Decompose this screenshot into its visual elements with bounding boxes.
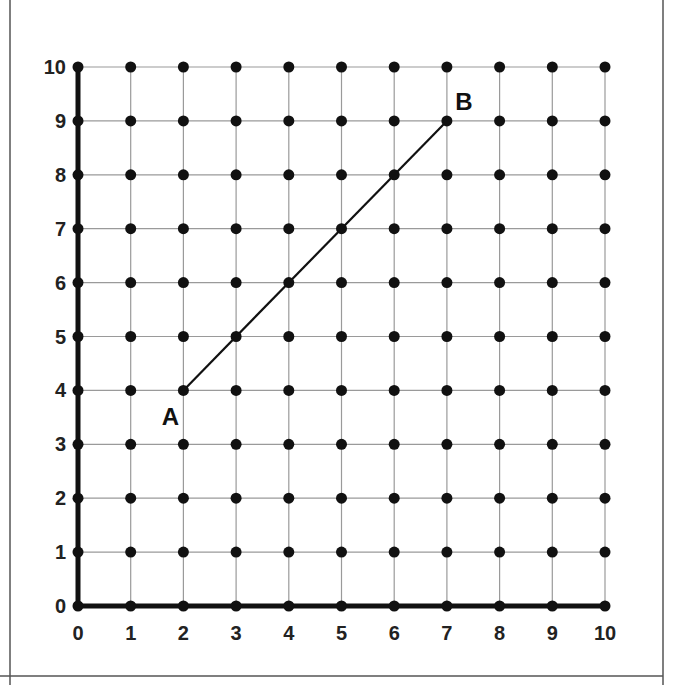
lattice-dot bbox=[178, 547, 189, 558]
lattice-dot bbox=[389, 62, 400, 73]
lattice-dot bbox=[283, 115, 294, 126]
lattice-dot bbox=[547, 331, 558, 342]
x-tick-label: 4 bbox=[283, 622, 295, 644]
lattice-dot bbox=[283, 169, 294, 180]
lattice-dot bbox=[125, 493, 136, 504]
lattice-dot bbox=[389, 223, 400, 234]
lattice-dot bbox=[441, 601, 452, 612]
lattice-dot bbox=[283, 223, 294, 234]
lattice-dot bbox=[125, 223, 136, 234]
lattice-dot bbox=[231, 385, 242, 396]
x-tick-label: 7 bbox=[441, 622, 452, 644]
lattice-dot bbox=[547, 601, 558, 612]
lattice-dot bbox=[389, 385, 400, 396]
lattice-dot bbox=[441, 62, 452, 73]
y-tick-label: 6 bbox=[55, 272, 66, 294]
lattice-dot bbox=[600, 115, 611, 126]
lattice-dot bbox=[494, 331, 505, 342]
lattice-dot bbox=[441, 115, 452, 126]
lattice-dot bbox=[547, 439, 558, 450]
lattice-dot bbox=[494, 385, 505, 396]
lattice-dot bbox=[73, 62, 84, 73]
lattice-dot bbox=[547, 223, 558, 234]
x-tick-label: 5 bbox=[336, 622, 347, 644]
lattice-dot bbox=[73, 277, 84, 288]
lattice-dot bbox=[389, 331, 400, 342]
lattice-dot bbox=[231, 223, 242, 234]
lattice-dot bbox=[125, 331, 136, 342]
lattice-dot bbox=[600, 601, 611, 612]
lattice-dot bbox=[600, 439, 611, 450]
lattice-dot bbox=[283, 277, 294, 288]
point-labels: AB bbox=[162, 88, 473, 431]
lattice-dot bbox=[231, 331, 242, 342]
lattice-dot bbox=[441, 223, 452, 234]
lattice-dot bbox=[125, 62, 136, 73]
lattice-dot bbox=[231, 62, 242, 73]
lattice-dot bbox=[73, 115, 84, 126]
lattice-dot bbox=[441, 277, 452, 288]
x-tick-label: 1 bbox=[125, 622, 136, 644]
lattice-dot bbox=[389, 277, 400, 288]
lattice-dot bbox=[125, 169, 136, 180]
lattice-dot bbox=[600, 277, 611, 288]
lattice-dot bbox=[231, 115, 242, 126]
lattice-dot bbox=[73, 223, 84, 234]
lattice-dot bbox=[494, 493, 505, 504]
y-tick-label: 10 bbox=[44, 56, 66, 78]
lattice-dot bbox=[336, 439, 347, 450]
lattice-dot bbox=[494, 547, 505, 558]
lattice-dot bbox=[494, 277, 505, 288]
lattice-dot bbox=[178, 169, 189, 180]
lattice-dot bbox=[283, 601, 294, 612]
lattice-dot bbox=[441, 439, 452, 450]
lattice-dot bbox=[231, 169, 242, 180]
y-tick-label: 1 bbox=[55, 541, 66, 563]
lattice-dot bbox=[389, 439, 400, 450]
lattice-dot bbox=[73, 439, 84, 450]
lattice-dot bbox=[283, 547, 294, 558]
x-tick-label: 8 bbox=[494, 622, 505, 644]
y-tick-label: 2 bbox=[55, 487, 66, 509]
lattice-dot bbox=[336, 493, 347, 504]
lattice-dot bbox=[600, 62, 611, 73]
lattice-dot bbox=[441, 493, 452, 504]
lattice-dot bbox=[494, 62, 505, 73]
x-tick-label: 2 bbox=[178, 622, 189, 644]
lattice-dot bbox=[336, 385, 347, 396]
lattice-dot bbox=[73, 547, 84, 558]
lattice-dot bbox=[125, 277, 136, 288]
lattice-dot bbox=[600, 385, 611, 396]
lattice-dot bbox=[73, 385, 84, 396]
point-b-label: B bbox=[455, 88, 472, 115]
lattice-dot bbox=[336, 223, 347, 234]
lattice-dot bbox=[389, 547, 400, 558]
lattice-dot bbox=[600, 169, 611, 180]
lattice-dot bbox=[178, 493, 189, 504]
lattice-dot bbox=[600, 223, 611, 234]
lattice-dot bbox=[494, 439, 505, 450]
y-tick-label: 4 bbox=[55, 379, 67, 401]
lattice-dot bbox=[547, 493, 558, 504]
lattice-dot bbox=[283, 331, 294, 342]
lattice-dot bbox=[389, 115, 400, 126]
lattice-dot bbox=[494, 115, 505, 126]
lattice-dot bbox=[336, 62, 347, 73]
lattice-dot bbox=[231, 547, 242, 558]
lattice-dot bbox=[178, 62, 189, 73]
lattice-dot bbox=[231, 439, 242, 450]
lattice-dot bbox=[600, 493, 611, 504]
y-tick-label: 0 bbox=[55, 595, 66, 617]
lattice-dot bbox=[178, 439, 189, 450]
y-tick-label: 7 bbox=[55, 218, 66, 240]
lattice-dot bbox=[178, 385, 189, 396]
lattice-dot bbox=[73, 331, 84, 342]
coordinate-grid: 012345678910012345678910 AB bbox=[0, 0, 675, 685]
x-tick-label: 0 bbox=[72, 622, 83, 644]
lattice-dot bbox=[494, 223, 505, 234]
lattice-dot bbox=[231, 277, 242, 288]
lattice-dot bbox=[178, 115, 189, 126]
lattice-dot bbox=[441, 169, 452, 180]
lattice-dot bbox=[547, 385, 558, 396]
lattice-dot bbox=[178, 331, 189, 342]
